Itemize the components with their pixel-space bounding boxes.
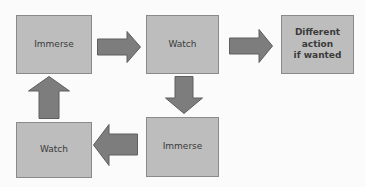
node-different-action: Different action if wanted <box>281 15 354 74</box>
node-label: Watch <box>168 39 196 51</box>
node-immerse-top: Immerse <box>16 15 92 74</box>
node-label: Immerse <box>34 39 74 51</box>
node-watch-top: Watch <box>146 15 219 74</box>
node-label-line: if wanted <box>294 50 342 62</box>
node-watch-bottom: Watch <box>16 122 92 178</box>
arrow-down-icon <box>165 76 203 114</box>
arrow-right-icon <box>97 31 141 63</box>
node-label-line: Different <box>295 27 340 39</box>
arrow-right-icon <box>229 29 273 63</box>
node-label-line: action <box>302 39 333 51</box>
arrow-left-icon <box>93 124 138 166</box>
node-immerse-bottom: Immerse <box>146 117 219 177</box>
node-label: Immerse <box>163 141 203 153</box>
node-label: Watch <box>40 144 68 156</box>
arrow-up-icon <box>28 76 70 119</box>
